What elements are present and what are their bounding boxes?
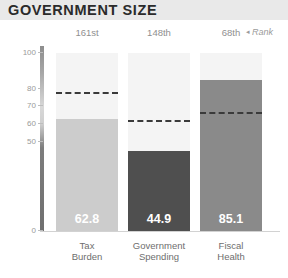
y-axis-tick-0: 0 <box>14 226 36 235</box>
bar-2[interactable]: 44.9 <box>128 151 190 231</box>
category-label-line: Government <box>119 240 199 251</box>
government-size-chart: GOVERNMENT SIZE 161st 148th 68th ◂Rank 1… <box>0 0 288 278</box>
rank-legend: ◂Rank <box>246 27 273 37</box>
benchmark-line-3 <box>200 112 262 114</box>
rank-legend-label: Rank <box>252 27 273 37</box>
x-axis-baseline <box>40 231 280 232</box>
category-label-row: TaxBurden GovernmentSpending FiscalHealt… <box>0 240 288 270</box>
benchmark-line-1 <box>56 92 118 94</box>
y-axis-tick-mark <box>38 141 43 142</box>
left-caret-icon: ◂ <box>246 28 250 35</box>
category-label-line: Fiscal <box>191 240 271 251</box>
y-axis-tick-80: 80 <box>14 84 36 93</box>
category-label-line: Burden <box>47 251 127 262</box>
y-axis-tick-100: 100 <box>14 48 36 57</box>
category-label-fiscal-health: FiscalHealth <box>191 240 271 262</box>
y-axis-gradient-bar <box>40 46 44 231</box>
bar-track-2[interactable]: 44.9 <box>128 53 190 231</box>
plot-area: 100807060500 62.844.985.1 <box>0 46 288 238</box>
bar-value-label-1: 62.8 <box>56 212 118 226</box>
bar-3[interactable]: 85.1 <box>200 80 262 231</box>
y-axis-tick-70: 70 <box>14 101 36 110</box>
page-title: GOVERNMENT SIZE <box>8 2 157 18</box>
category-label-line: Health <box>191 251 271 262</box>
y-axis-tick-mark <box>38 105 43 106</box>
bar-value-label-3: 85.1 <box>200 212 262 226</box>
y-axis-tick-50: 50 <box>14 137 36 146</box>
category-label-line: Spending <box>119 251 199 262</box>
rank-label-tax-burden: 161st <box>56 27 118 38</box>
bar-track-1[interactable]: 62.8 <box>56 53 118 231</box>
rank-label-government-spending: 148th <box>128 27 190 38</box>
bar-track-3[interactable]: 85.1 <box>200 53 262 231</box>
y-axis-tick-mark <box>38 88 43 89</box>
y-axis-tick-mark <box>38 123 43 124</box>
bar-1[interactable]: 62.8 <box>56 119 118 231</box>
y-axis-tick-mark <box>38 52 43 53</box>
rank-row: 161st 148th 68th ◂Rank <box>0 27 288 41</box>
category-label-line: Tax <box>47 240 127 251</box>
category-label-tax-burden: TaxBurden <box>47 240 127 262</box>
benchmark-line-2 <box>128 120 190 122</box>
y-axis-tick-60: 60 <box>14 119 36 128</box>
bar-value-label-2: 44.9 <box>128 212 190 226</box>
category-label-government-spending: GovernmentSpending <box>119 240 199 262</box>
